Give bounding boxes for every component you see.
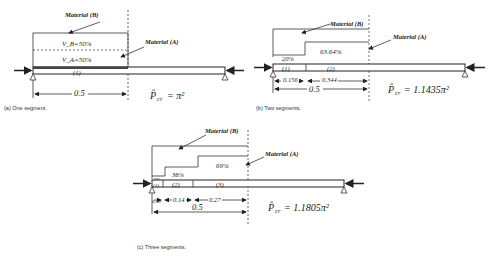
fraction-2: 63.64% [320,48,342,56]
material-profile-step [152,156,248,176]
material-a-label: Material (A) [264,150,298,158]
pcr-value: = 1.1435π² [404,84,450,95]
critical-load-result: P̂ cr = 1.1805π² [267,201,330,214]
material-a-label: Material (A) [392,33,426,41]
panel-one-segment: V_B=50% V_A=50% Material (B) Material (A… [4,10,244,111]
vb-label: V_B=50% [62,40,92,48]
caption-c: (c) Three segments. [137,244,187,250]
pcr-subscript: cr [395,89,401,96]
material-profile-outer [152,146,248,179]
material-b-arrow [179,135,206,149]
material-a-arrow [246,157,264,165]
panel-two-segments: 20% 63.64% Material (B) Material (A) (1)… [254,15,485,111]
critical-load-result: P̂ cr = π² [149,89,185,102]
dim-label-0.5: 0.5 [192,202,203,212]
pcr-subscript: cr [275,207,281,214]
fraction-2: 38% [171,171,185,178]
pcr-value: = π² [167,90,185,101]
caption-a: (a) One segment. [4,105,47,111]
material-a-arrow [369,40,391,49]
beam [273,64,465,71]
beam [152,180,344,187]
dim-label-0.5: 0.5 [74,88,85,98]
pcr-value: = 1.1805π² [284,202,330,213]
segment-3-label: (3) [216,181,224,189]
pcr-symbol: P̂ [387,83,394,95]
pcr-symbol: P̂ [149,89,156,101]
caption-b: (b) Two segments. [256,105,302,111]
va-label: V_A=50% [62,56,92,64]
fraction-3: 69% [216,162,229,170]
dim-label-0.344: 0.344 [322,76,337,83]
dim-label-0.156: 0.156 [283,76,298,83]
left-support-icon [270,71,276,77]
fraction-1: 20% [282,55,295,62]
dim-label-0.09: 0.09 [152,199,161,204]
material-b-label: Material (B) [204,127,238,135]
dim-label-0.5: 0.5 [309,84,320,94]
right-support-icon [341,187,347,193]
segment-1-label: (1) [153,183,159,188]
segment-1-label: (1) [282,65,290,73]
segment-1-label: (1) [73,69,81,77]
right-support-icon [222,74,228,80]
dim-label-0.27: 0.27 [209,196,221,203]
critical-load-result: P̂ cr = 1.1435π² [387,83,450,96]
right-support-icon [462,71,468,77]
material-b-arrow [302,24,330,33]
panel-three-segments: 10% 38% 69% Material (B) Material (A) (1… [133,127,364,250]
material-b-label: Material (B) [329,20,363,28]
segment-2-label: (2) [172,181,180,189]
dim-label-0.14: 0.14 [173,196,185,203]
material-a-label: Material (A) [144,38,178,46]
material-a-arrow [121,47,144,57]
pcr-subscript: cr [157,95,163,102]
left-support-icon [30,74,36,80]
pcr-symbol: P̂ [267,201,274,213]
material-b-arrow [69,22,100,33]
material-b-label: Material (B) [64,11,98,19]
segment-2-label: (2) [327,65,335,73]
